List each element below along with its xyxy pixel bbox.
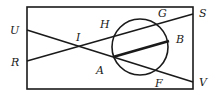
label-G: G — [158, 7, 167, 20]
label-S: S — [199, 7, 207, 20]
circle — [112, 19, 168, 75]
label-V: V — [199, 76, 208, 89]
label-B: B — [175, 33, 184, 46]
label-I: I — [75, 31, 81, 44]
label-R: R — [10, 56, 19, 69]
label-A: A — [95, 64, 104, 77]
label-U: U — [10, 24, 20, 37]
chord-AB — [113, 41, 169, 57]
label-F: F — [154, 77, 163, 90]
label-H: H — [99, 18, 110, 31]
geometry-diagram: U R I H G S B A F V — [0, 0, 222, 97]
